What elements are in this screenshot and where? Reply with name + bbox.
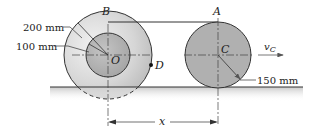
dimension-x-arrow-left (108, 120, 116, 125)
label-x: x (159, 115, 166, 128)
label-d: D (154, 59, 164, 72)
label-100mm: 100 mm (16, 41, 58, 52)
label-c: C (221, 43, 230, 56)
label-200mm: 200 mm (23, 22, 65, 33)
velocity-subscript: C (270, 45, 276, 54)
label-velocity: vC (264, 41, 276, 54)
label-150mm: 150 mm (257, 75, 299, 86)
mechanics-diagram: B A O C D 200 mm 100 mm 150 mm x vC (0, 0, 319, 132)
label-o: O (111, 54, 120, 67)
dimension-x-arrow-right (210, 120, 218, 125)
label-a: A (212, 5, 221, 18)
point-d-dot (149, 63, 153, 67)
label-b: B (101, 5, 110, 18)
